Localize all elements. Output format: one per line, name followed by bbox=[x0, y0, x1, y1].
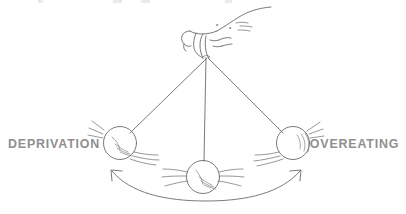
swing-arrow bbox=[111, 170, 301, 201]
right-ball bbox=[277, 127, 310, 160]
label-deprivation: DEPRIVATION bbox=[8, 137, 100, 151]
left-ball bbox=[104, 127, 137, 160]
pendulum-illustration bbox=[0, 0, 406, 214]
string-right bbox=[208, 58, 283, 133]
pendulum-strings bbox=[130, 58, 283, 161]
center-ball-group bbox=[162, 161, 244, 194]
string-left bbox=[130, 58, 207, 133]
illustration-canvas: DEPRIVATION OVEREATING bbox=[0, 0, 406, 214]
hand-drawing bbox=[182, 7, 271, 58]
label-overeating: OVEREATING bbox=[310, 137, 399, 151]
string-center bbox=[204, 58, 206, 161]
